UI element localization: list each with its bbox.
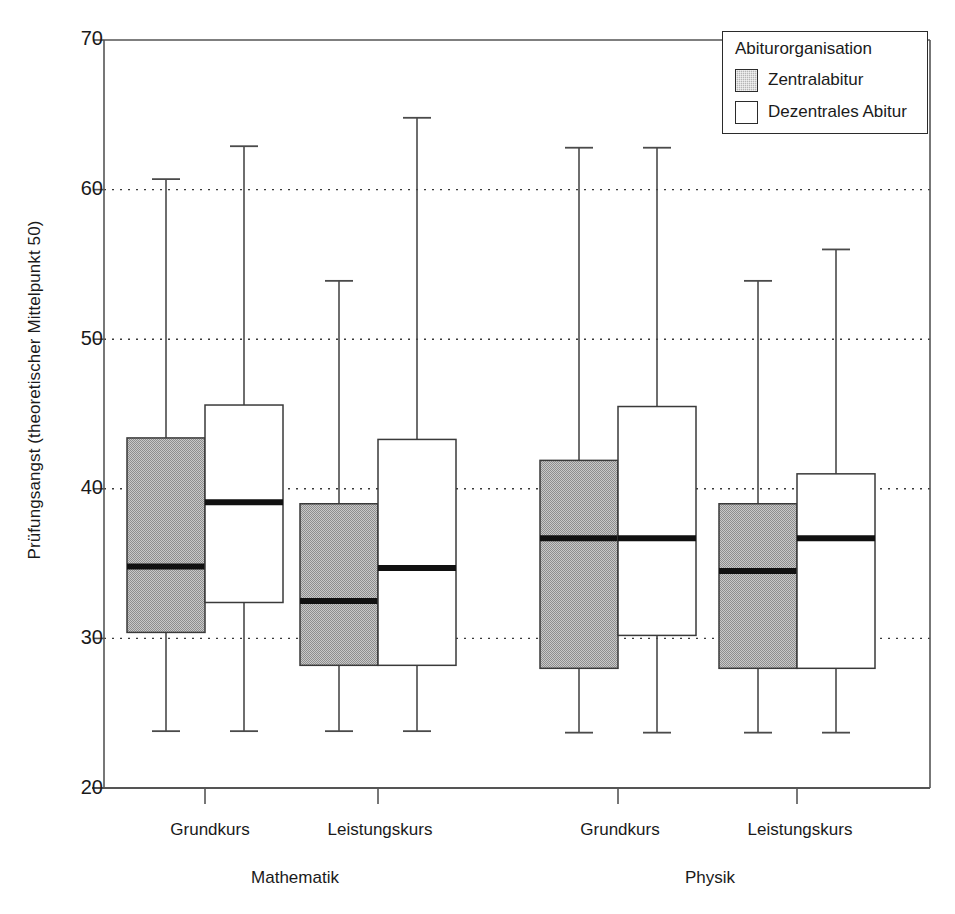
box-3-zentralabitur xyxy=(540,460,618,668)
legend-item-label: Dezentrales Abitur xyxy=(768,102,907,122)
plot-area xyxy=(0,0,955,914)
x-tick-label-physik-grundkurs: Grundkurs xyxy=(520,820,720,840)
box-4-dezentral xyxy=(797,474,875,668)
legend: Abiturorganisation Zentralabitur Dezentr… xyxy=(722,31,928,134)
x-tick-label-physik-leistungskurs: Leistungskurs xyxy=(700,820,900,840)
box-3-dezentral xyxy=(618,407,696,636)
legend-swatch-white-icon xyxy=(735,101,758,124)
y-axis-label: Prüfungsangst (theoretischer Mittelpunkt… xyxy=(25,90,45,690)
y-tick-label-50: 50 xyxy=(55,327,103,350)
y-tick-label-40: 40 xyxy=(55,476,103,499)
box-2-dezentral xyxy=(378,439,456,665)
y-tick-label-20: 20 xyxy=(55,776,103,799)
legend-title: Abiturorganisation xyxy=(735,39,872,59)
legend-item-label: Zentralabitur xyxy=(768,70,863,90)
legend-swatch-gray-icon xyxy=(735,69,758,92)
y-tick-label-30: 30 xyxy=(55,626,103,649)
box-4-zentralabitur xyxy=(719,504,797,669)
x-group-label-physik: Physik xyxy=(610,868,810,888)
y-tick-label-60: 60 xyxy=(55,177,103,200)
x-tick-label-mathematik-leistungskurs: Leistungskurs xyxy=(280,820,480,840)
boxplot-figure: Prüfungsangst (theoretischer Mittelpunkt… xyxy=(0,0,955,914)
box-1-zentralabitur xyxy=(127,438,205,632)
y-tick-label-70: 70 xyxy=(55,27,103,50)
x-group-label-mathematik: Mathematik xyxy=(195,868,395,888)
box-2-zentralabitur xyxy=(300,504,378,666)
